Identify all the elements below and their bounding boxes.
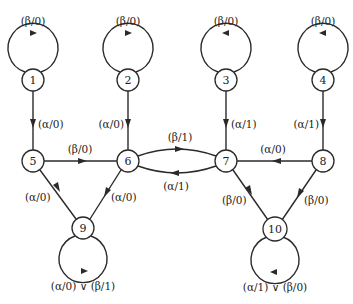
state-node-7: 7: [215, 150, 237, 172]
edge-label-3-7: (α/1): [231, 118, 257, 130]
edge-7-6: (α/1): [138, 166, 216, 192]
svg-text:3: 3: [223, 74, 230, 87]
edge-1-5: (α/0): [30, 91, 64, 150]
edge-8-10: (β/0): [282, 170, 328, 220]
svg-text:2: 2: [125, 74, 132, 87]
edge-6-9: (α/0): [90, 170, 137, 219]
state-node-6: 6: [117, 150, 139, 172]
edge-5-6: (β/0): [44, 143, 117, 164]
state-node-4: 4: [312, 69, 334, 91]
edge-8-7: (α/0): [237, 143, 312, 164]
state-node-5: 5: [22, 150, 44, 172]
state-node-9: 9: [72, 217, 94, 239]
state-diagram: (β/0) (β/0) (β/0) (β/0) (α/0) (α/0) (α/1…: [0, 0, 353, 304]
edge-label-7-10: (β/0): [222, 194, 246, 206]
svg-text:10: 10: [268, 223, 282, 236]
edge-7-10: (β/0): [222, 170, 268, 220]
edge-label-9-9: (α/0) ∨ (β/1): [51, 280, 115, 292]
loop-10: (α/1) ∨ (β/0): [243, 237, 307, 293]
state-node-3: 3: [215, 69, 237, 91]
svg-text:6: 6: [125, 155, 132, 168]
edge-5-9: (α/0): [25, 170, 76, 219]
state-node-10: 10: [263, 217, 287, 241]
svg-text:7: 7: [223, 155, 230, 168]
loop-4: (β/0): [298, 15, 348, 72]
edge-label-7-6: (α/1): [163, 180, 189, 192]
svg-text:1: 1: [30, 74, 37, 87]
edge-6-7: (β/1): [138, 131, 216, 156]
edge-label-2-2: (β/0): [116, 15, 140, 27]
edge-label-2-6: (α/0): [98, 118, 124, 130]
edge-label-4-8: (α/1): [293, 118, 319, 130]
loop-2: (β/0): [103, 15, 153, 72]
loop-9: (α/0) ∨ (β/1): [51, 236, 115, 292]
edge-3-7: (α/1): [223, 91, 257, 150]
edge-label-8-10: (β/0): [304, 194, 328, 206]
state-node-8: 8: [312, 150, 334, 172]
edge-label-6-9: (α/0): [111, 191, 137, 203]
edge-label-5-6: (β/0): [68, 143, 92, 155]
loop-3: (β/0): [201, 15, 251, 72]
loop-1: (β/0): [8, 15, 58, 72]
state-node-1: 1: [22, 69, 44, 91]
edge-2-6: (α/0): [98, 91, 131, 150]
edge-label-6-7: (β/1): [168, 131, 192, 143]
edge-label-10-10: (α/1) ∨ (β/0): [243, 281, 307, 293]
edge-4-8: (α/1): [293, 91, 326, 150]
svg-text:4: 4: [320, 74, 327, 87]
state-node-2: 2: [117, 69, 139, 91]
edge-label-5-9: (α/0): [25, 191, 51, 203]
svg-text:5: 5: [30, 155, 37, 168]
svg-text:9: 9: [80, 222, 87, 235]
edge-label-3-3: (β/0): [214, 15, 238, 27]
edge-label-1-5: (α/0): [38, 118, 64, 130]
edge-label-4-4: (β/0): [311, 15, 335, 27]
edge-label-1-1: (β/0): [21, 15, 45, 27]
edge-label-8-7: (α/0): [260, 143, 286, 155]
svg-text:8: 8: [320, 155, 327, 168]
